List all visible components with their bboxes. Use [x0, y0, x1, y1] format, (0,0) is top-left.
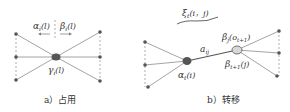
alpha-label: αt(i): [178, 70, 195, 81]
beta-label: βi(l): [59, 21, 76, 32]
left-arrow-head: [38, 33, 41, 36]
node: [98, 79, 102, 83]
node: [143, 63, 147, 67]
edge: [237, 50, 279, 53]
node: [277, 29, 281, 33]
edge: [56, 32, 100, 57]
xi-brace: [177, 17, 218, 24]
beta-bottom-label: βt+1(j): [224, 59, 249, 70]
alpha-label: αi(l): [33, 21, 50, 32]
node: [14, 32, 18, 36]
state-i-node: [183, 57, 192, 65]
state-j-node: [232, 46, 242, 54]
node: [98, 55, 102, 59]
xi-label: ξt(i，j): [182, 8, 209, 19]
edge: [16, 34, 56, 57]
node: [146, 85, 150, 89]
panel-transition: ξt(i，j) aij αt(i) βj(ot+1) βt+1(j): [143, 8, 281, 105]
caption-a: a）占用: [44, 94, 76, 105]
right-arrow-head: [69, 33, 72, 36]
edge: [145, 61, 187, 65]
beta-top-label: βj(ot+1): [221, 32, 250, 44]
node: [143, 40, 147, 44]
edge: [145, 42, 187, 61]
caption-b: b）转移: [207, 94, 240, 105]
panel-occupancy: αi(l) βi(l) γi(l) a）占用: [14, 20, 102, 105]
node: [14, 78, 18, 82]
gamma-label: γi(l): [48, 65, 64, 76]
node: [14, 55, 18, 59]
center-node: [52, 54, 61, 61]
hmm-diagram: αi(l) βi(l) γi(l) a）占用 ξt(i，j): [0, 0, 290, 112]
node: [277, 51, 281, 55]
node: [275, 74, 279, 78]
node: [98, 30, 102, 34]
a-ij-label: aij: [200, 44, 209, 56]
